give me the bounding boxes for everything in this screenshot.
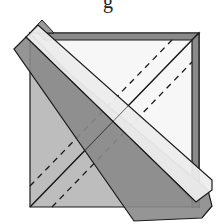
origami-fold-diagram: [0, 0, 216, 224]
top-band: [38, 33, 199, 40]
